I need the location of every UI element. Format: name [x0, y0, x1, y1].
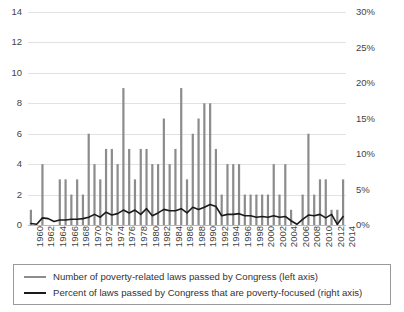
x-tick-1994: 1994	[231, 226, 241, 247]
chart-legend: Number of poverty-related laws passed by…	[13, 264, 391, 305]
x-tick-2012: 2012	[336, 226, 346, 247]
bar-1965	[59, 179, 61, 225]
bar-1971	[93, 164, 95, 225]
bar-1970	[88, 134, 90, 225]
series-layer	[28, 12, 346, 225]
right-tick-5pct: 5%	[356, 185, 370, 195]
bar-1967	[70, 195, 72, 225]
bar-1969	[82, 195, 84, 225]
bar-2000	[261, 195, 263, 225]
x-tick-1974: 1974	[116, 226, 126, 247]
bar-2008	[307, 134, 309, 225]
x-tick-1960: 1960	[35, 226, 45, 247]
bar-1966	[64, 179, 66, 225]
left-tick-6: 6	[17, 129, 22, 139]
bar-1986	[180, 88, 182, 225]
bar-swatch-icon	[24, 276, 46, 278]
right-tick-30pct: 30%	[356, 7, 375, 17]
bar-1999	[255, 195, 257, 225]
bar-1995	[232, 164, 234, 225]
bar-1962	[41, 164, 43, 225]
series-svg	[28, 12, 346, 225]
legend-item-laws-count: Number of poverty-related laws passed by…	[24, 270, 318, 284]
x-tick-1992: 1992	[220, 226, 230, 247]
right-tick-15pct: 15%	[356, 114, 375, 124]
legend-item-laws-percent: Percent of laws passed by Congress that …	[24, 286, 362, 300]
x-tick-1996: 1996	[243, 226, 253, 247]
bar-1976	[122, 88, 124, 225]
bar-1984	[169, 164, 171, 225]
bar-1980	[145, 149, 147, 225]
x-tick-2014: 2014	[347, 226, 357, 247]
bar-2010	[319, 179, 321, 225]
bar-series-laws-count	[30, 88, 344, 225]
left-tick-8: 8	[17, 98, 22, 108]
bar-2005	[290, 210, 292, 225]
x-tick-1978: 1978	[139, 226, 149, 247]
left-axis-tick-labels: 02468101214	[0, 12, 26, 225]
right-tick-20pct: 20%	[356, 78, 375, 88]
x-tick-1984: 1984	[174, 226, 184, 247]
bar-2003	[278, 195, 280, 225]
bar-1975	[117, 164, 119, 225]
bar-1996	[238, 164, 240, 225]
x-tick-2006: 2006	[301, 226, 311, 247]
x-tick-1990: 1990	[208, 226, 218, 247]
bar-1978	[134, 179, 136, 225]
left-tick-12: 12	[11, 37, 22, 47]
x-tick-1966: 1966	[70, 226, 80, 247]
right-tick-25pct: 25%	[356, 43, 375, 53]
bar-1968	[76, 179, 78, 225]
left-tick-4: 4	[17, 159, 22, 169]
x-axis-tick-labels: 1960196219641966196819701972197419761978…	[28, 226, 346, 260]
bar-2009	[313, 195, 315, 225]
x-tick-1976: 1976	[127, 226, 137, 247]
bar-1994	[226, 164, 228, 225]
poverty-laws-chart: 02468101214 0%5%10%15%20%25%30% 19601962…	[0, 0, 404, 312]
line-swatch-icon	[24, 292, 46, 294]
right-axis-tick-labels: 0%5%10%15%20%25%30%	[350, 12, 390, 225]
x-tick-1964: 1964	[58, 226, 68, 247]
right-tick-10pct: 10%	[356, 149, 375, 159]
x-tick-1998: 1998	[255, 226, 265, 247]
left-tick-14: 14	[11, 7, 22, 17]
bar-1998	[250, 195, 252, 225]
x-tick-1970: 1970	[93, 226, 103, 247]
x-tick-2000: 2000	[266, 226, 276, 247]
bar-1960	[30, 210, 32, 225]
bar-1985	[174, 149, 176, 225]
bar-1987	[186, 179, 188, 225]
x-tick-2004: 2004	[289, 226, 299, 247]
bar-2012	[330, 210, 332, 225]
left-tick-2: 2	[17, 190, 22, 200]
bar-1988	[192, 134, 194, 225]
bar-1997	[244, 195, 246, 225]
x-tick-1972: 1972	[104, 226, 114, 247]
legend-label-laws-count: Number of poverty-related laws passed by…	[53, 272, 318, 282]
legend-label-laws-percent: Percent of laws passed by Congress that …	[53, 288, 362, 298]
x-tick-2008: 2008	[312, 226, 322, 247]
x-tick-1980: 1980	[151, 226, 161, 247]
right-tick-0pct: 0%	[356, 220, 370, 230]
bar-1992	[215, 149, 217, 225]
bar-1972	[99, 179, 101, 225]
x-tick-1986: 1986	[185, 226, 195, 247]
x-tick-2002: 2002	[278, 226, 288, 247]
x-tick-2010: 2010	[324, 226, 334, 247]
bar-1974	[111, 149, 113, 225]
bar-1991	[209, 103, 211, 225]
left-tick-0: 0	[17, 220, 22, 230]
plot-area	[28, 12, 346, 225]
x-tick-1968: 1968	[81, 226, 91, 247]
x-tick-1962: 1962	[46, 226, 56, 247]
left-tick-10: 10	[11, 68, 22, 78]
bar-1993	[221, 195, 223, 225]
x-tick-1988: 1988	[197, 226, 207, 247]
bar-2001	[267, 195, 269, 225]
x-tick-1982: 1982	[162, 226, 172, 247]
bar-1982	[157, 164, 159, 225]
